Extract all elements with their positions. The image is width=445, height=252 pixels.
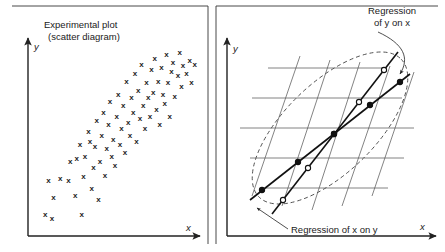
scatter-marker: x (86, 127, 91, 136)
scatter-marker: x (179, 82, 184, 91)
scatter-marker: x (78, 140, 83, 149)
scatter-marker: x (119, 124, 124, 133)
leader-x-on-y (257, 208, 288, 229)
scatter-marker: x (111, 135, 116, 144)
scatter-marker: x (168, 112, 173, 121)
scatter-marker: x (139, 60, 144, 69)
reg-y-on-x-node (280, 197, 285, 202)
scatter-marker: x (176, 71, 181, 80)
reg-y-on-x-node (356, 99, 361, 104)
regression-illustration-figure: y x Experimental plot (scatter diagram) … (0, 0, 445, 252)
left-y-axis-label: y (33, 41, 40, 52)
scatter-marker: x (75, 154, 80, 163)
scatter-marker: x (46, 176, 51, 185)
scatter-marker: x (144, 78, 149, 87)
scatter-marker: x (116, 90, 121, 99)
reg-x-on-y-node (397, 79, 402, 84)
scatter-marker: x (136, 86, 141, 95)
scatter-marker: x (126, 118, 131, 127)
scatter-marker: x (66, 176, 71, 185)
scatter-marker: x (103, 171, 108, 180)
scatter-marker: x (166, 78, 171, 87)
scatter-marker: x (94, 116, 99, 125)
scatter-marker: x (113, 161, 118, 170)
scatter-marker: x (169, 67, 174, 76)
scatter-marker: x (96, 195, 101, 204)
label-x-on-y: Regression of x on y (291, 224, 378, 235)
scatter-marker: x (109, 152, 114, 161)
left-title-line1: Experimental plot (44, 19, 118, 30)
right-panel-regression: y x (216, 5, 438, 244)
scatter-marker: x (189, 78, 194, 87)
scatter-marker: x (161, 90, 166, 99)
scatter-marker: x (156, 77, 161, 86)
scatter-marker: x (129, 93, 134, 102)
grid-o-1 (252, 56, 300, 196)
scatter-marker: x (184, 69, 189, 78)
scatter-marker: x (164, 50, 169, 59)
scatter-marker: x (159, 63, 164, 72)
scatter-marker: x (128, 131, 133, 140)
scatter-marker: x (143, 124, 148, 133)
scatter-marker: x (51, 193, 56, 202)
left-panel-scatter: y x Experimental plot (scatter diagram) … (12, 6, 208, 244)
reg-x-on-y-node (259, 187, 264, 192)
scatter-marker: x (123, 148, 128, 157)
scatter-marker: x (192, 60, 197, 69)
scatter-marker: x (93, 142, 98, 151)
scatter-marker: x (91, 163, 96, 172)
scatter-marker: x (106, 120, 111, 129)
reg-x-on-y-node (367, 102, 372, 107)
scatter-marker: x (171, 58, 176, 67)
scatter-marker: x (108, 97, 113, 106)
scatter-marker: x (80, 210, 85, 219)
scatter-marker: x (153, 54, 158, 63)
scatter-marker: x (149, 65, 154, 74)
scatter-marker: x (114, 112, 119, 121)
scatter-marker: x (90, 184, 95, 193)
right-x-axis-label: x (419, 221, 426, 232)
label-y-on-x-line2: of y on x (374, 17, 410, 28)
scatter-marker-group: xxxxxxxxxxxxxxxxxxxxxxxxxxxxxxxxxxxxxxxx… (43, 48, 197, 222)
reg-x-on-y-path (250, 74, 410, 200)
scatter-marker: x (68, 157, 73, 166)
scatter-marker: x (138, 114, 143, 123)
scatter-marker: x (173, 92, 178, 101)
scatter-marker: x (73, 191, 78, 200)
reg-x-on-y-node (331, 131, 336, 136)
scatter-marker: x (43, 210, 48, 219)
scatter-marker: x (131, 108, 136, 117)
scatter-marker: x (151, 88, 156, 97)
grid-o-2 (282, 60, 330, 206)
scatter-marker: x (177, 48, 182, 57)
left-title-line2: (scatter diagram) (48, 31, 120, 42)
scatter-marker: x (158, 120, 163, 129)
scatter-marker: x (81, 172, 86, 181)
reg-y-on-x-node (305, 165, 310, 170)
scatter-marker: x (101, 108, 106, 117)
scatter-marker: x (99, 131, 104, 140)
reg-y-on-x-node (381, 67, 386, 72)
scatter-marker: x (98, 157, 103, 166)
label-y-on-x-line1: Regression (368, 5, 416, 16)
right-y-axis-label: y (232, 43, 239, 54)
scatter-marker: x (154, 105, 159, 114)
scatter-marker: x (121, 101, 126, 110)
scatter-marker: x (133, 69, 138, 78)
scatter-marker: x (83, 152, 88, 161)
scatter-marker: x (124, 77, 129, 86)
regression-line-x-on-y (250, 74, 410, 200)
left-x-axis-label: x (185, 222, 192, 233)
scatter-marker: x (163, 99, 168, 108)
scatter-marker: x (58, 174, 63, 183)
scatter-marker: x (134, 137, 139, 146)
grid-o-5 (372, 72, 414, 196)
scatter-marker: x (50, 214, 55, 223)
scatter-marker: x (148, 112, 153, 121)
reg-x-on-y-node (295, 159, 300, 164)
figure-canvas: y x Experimental plot (scatter diagram) … (0, 0, 445, 252)
